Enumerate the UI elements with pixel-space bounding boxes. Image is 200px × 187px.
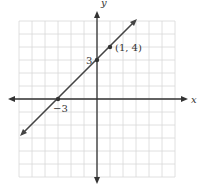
- function-line: [22, 21, 135, 134]
- point-label: (1, 4): [115, 42, 142, 53]
- y-axis-up-arrow-icon: [94, 11, 100, 18]
- coordinate-plane: 3 −3 (1, 4) x y: [0, 0, 200, 187]
- x-axis-left-arrow-icon: [8, 96, 15, 102]
- y-axis-label: y: [100, 0, 107, 8]
- point-1-4: [108, 45, 112, 49]
- point-y-intercept: [95, 58, 99, 62]
- y-axis-down-arrow-icon: [94, 177, 100, 184]
- x-intercept-label: −3: [53, 103, 68, 114]
- x-axis-right-arrow-icon: [181, 96, 188, 102]
- point-x-intercept: [56, 97, 60, 101]
- y-intercept-label: 3: [86, 55, 92, 66]
- x-axis-label: x: [191, 94, 197, 105]
